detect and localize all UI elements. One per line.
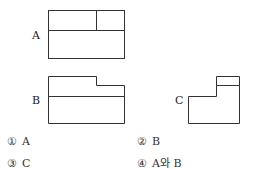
diagram-canvas: A B C ①A ②B ③C ④A와 B [0, 0, 260, 169]
option-4[interactable]: ④A와 B [137, 158, 182, 169]
option-4-text: A와 B [152, 157, 182, 169]
option-2-text: B [152, 135, 160, 148]
option-3-number: ③ [7, 157, 17, 169]
figure-b-label: B [32, 95, 40, 106]
option-1-text: A [22, 135, 30, 148]
option-4-number: ④ [137, 157, 147, 169]
option-1-number: ① [7, 135, 17, 148]
figure-b-shape [49, 77, 125, 124]
figure-a-label: A [32, 30, 40, 41]
figures-svg [0, 0, 260, 169]
figure-c-shape [189, 77, 240, 124]
option-2-number: ② [137, 135, 147, 148]
option-1[interactable]: ①A [7, 136, 30, 147]
figure-a-shape [49, 11, 125, 59]
figure-c-label: C [175, 95, 183, 106]
option-3-text: C [22, 157, 30, 169]
option-3[interactable]: ③C [7, 158, 30, 169]
option-2[interactable]: ②B [137, 136, 160, 147]
